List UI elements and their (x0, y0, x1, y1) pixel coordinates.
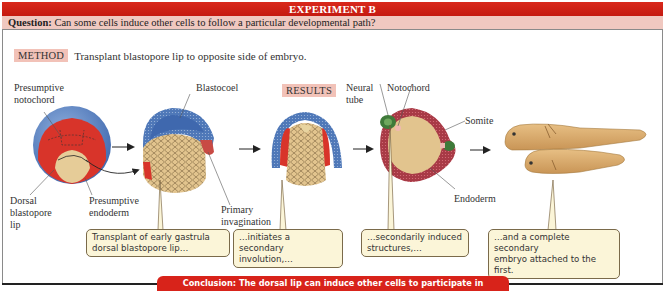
label-dorsal-blastopore-lip: Dorsal blastopore lip (10, 195, 52, 231)
gastrula-transplant (143, 108, 214, 193)
secondary-involution (272, 112, 342, 186)
conclusion-banner: Conclusion: The dorsal lip can induce ot… (157, 276, 509, 291)
label-presumptive-endoderm: Presumptive endoderm (89, 195, 139, 219)
label-presumptive-notochord: Presumptive notochord (14, 82, 64, 106)
callout-secondary-embryo: …and a complete secondary embryo attache… (488, 229, 620, 279)
label-notochord: Notochord (387, 82, 430, 94)
label-blastocoel: Blastocoel (196, 82, 238, 94)
callout-induced-structures: …secondarily induced structures,… (361, 229, 469, 257)
label-neural-tube: Neural tube (346, 82, 373, 106)
callout-transplant: Transplant of early gastrula dorsal blas… (86, 229, 230, 257)
early-gastrula (33, 106, 111, 184)
label-endoderm: Endoderm (454, 193, 496, 205)
callout-secondary-involution: …initiates a secondary involution,… (233, 229, 343, 268)
twin-embryo (505, 124, 646, 174)
label-primary-invagination: Primary invagination (221, 204, 271, 228)
label-somite: Somite (465, 115, 493, 127)
